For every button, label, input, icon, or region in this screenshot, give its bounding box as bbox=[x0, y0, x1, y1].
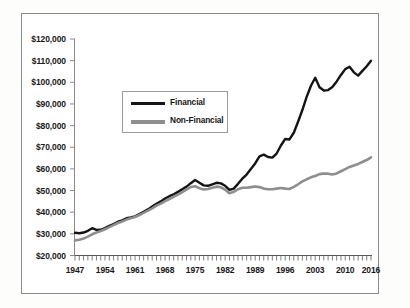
x-axis-tick-label: 1975 bbox=[178, 265, 212, 275]
y-axis-tick-label: $50,000 bbox=[10, 186, 66, 196]
legend-label-non-financial: Non-Financial bbox=[170, 115, 224, 125]
x-axis-tick-label: 1996 bbox=[268, 265, 302, 275]
y-axis-tick-label: $110,000 bbox=[10, 56, 66, 66]
x-axis-tick-label: 2003 bbox=[298, 265, 332, 275]
chart-figure: $120,000$110,000$100,000$90,000$80,000$7… bbox=[0, 0, 410, 308]
chart-legend: Financial Non-Financial bbox=[122, 91, 228, 133]
x-axis-tick-label: 1989 bbox=[238, 265, 272, 275]
series-line-non-financial bbox=[75, 157, 371, 240]
series-line-financial bbox=[75, 61, 371, 233]
legend-swatch-financial bbox=[131, 102, 165, 105]
y-axis-tick-label: $70,000 bbox=[10, 142, 66, 152]
y-axis-tick-label: $90,000 bbox=[10, 99, 66, 109]
legend-item-financial: Financial bbox=[123, 95, 229, 111]
y-axis-tick-label: $20,000 bbox=[10, 251, 66, 261]
legend-swatch-non-financial bbox=[131, 120, 165, 124]
x-axis-tick-label: 1982 bbox=[208, 265, 242, 275]
x-axis-tick-label: 1961 bbox=[118, 265, 152, 275]
y-axis-tick-label: $80,000 bbox=[10, 121, 66, 131]
x-axis-tick-label: 2016 bbox=[354, 265, 388, 275]
legend-item-non-financial: Non-Financial bbox=[123, 113, 229, 129]
y-axis-tick-label: $40,000 bbox=[10, 207, 66, 217]
y-axis-tick-label: $30,000 bbox=[10, 229, 66, 239]
legend-label-financial: Financial bbox=[170, 97, 205, 107]
y-axis-tick-label: $120,000 bbox=[10, 34, 66, 44]
y-axis-tick-label: $60,000 bbox=[10, 164, 66, 174]
x-axis-tick-label: 1947 bbox=[58, 265, 92, 275]
y-axis-tick-label: $100,000 bbox=[10, 77, 66, 87]
data-series-group bbox=[75, 61, 371, 240]
x-axis-ticks bbox=[75, 256, 371, 261]
x-axis-tick-label: 1954 bbox=[88, 265, 122, 275]
chart-plot-area bbox=[0, 0, 410, 308]
x-axis-tick-label: 1968 bbox=[148, 265, 182, 275]
